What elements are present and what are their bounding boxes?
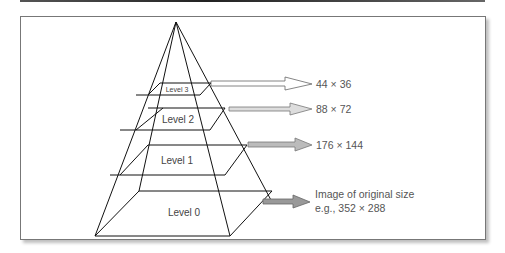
arrow-level-2	[229, 103, 312, 115]
level-0-size-line2: e.g., 352 × 288	[315, 202, 386, 214]
level-1-label: Level 1	[161, 155, 194, 166]
level-3-size: 44 × 36	[316, 78, 351, 90]
level-3-label: Level 3	[166, 86, 189, 93]
level-1-size: 176 × 144	[316, 139, 363, 151]
level-0-label: Level 0	[168, 207, 201, 218]
pyramid-diagram: Level 3 Level 2 Level 1 Level 0 44 × 36 …	[0, 0, 505, 253]
level-2-size: 88 × 72	[316, 103, 351, 115]
arrow-level-0	[263, 195, 310, 208]
arrows	[211, 77, 312, 208]
level-2-label: Level 2	[162, 114, 195, 125]
level-0-size-line1: Image of original size	[315, 188, 414, 200]
level-labels: Level 3 Level 2 Level 1 Level 0	[161, 86, 201, 218]
pyramid-edges	[95, 22, 272, 236]
arrow-level-1	[248, 138, 312, 151]
size-notes: 44 × 36 88 × 72 176 × 144 Image of origi…	[315, 78, 414, 214]
arrow-level-3	[211, 77, 312, 90]
